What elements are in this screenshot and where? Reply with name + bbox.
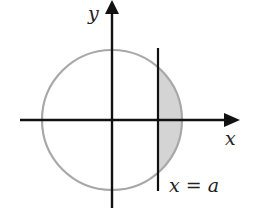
x-axis-arrow-icon bbox=[224, 113, 240, 127]
y-axis-arrow-icon bbox=[105, 0, 119, 14]
x-axis-label: x bbox=[225, 127, 236, 149]
y-axis-label: y bbox=[87, 2, 99, 24]
circle-segment-diagram: y x x = a bbox=[0, 0, 262, 208]
line-label: x = a bbox=[169, 174, 219, 196]
